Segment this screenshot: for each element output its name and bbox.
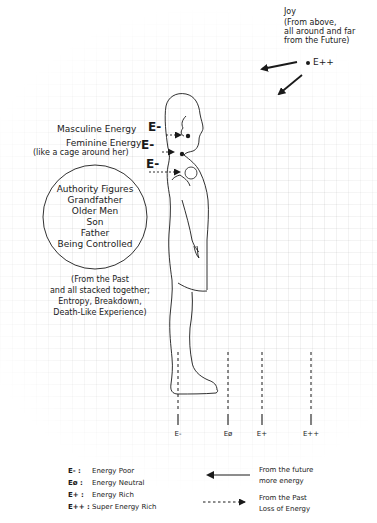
joy-arrow-down	[279, 75, 302, 94]
circle-item-authority: Authority Figures	[43, 184, 147, 194]
legend-code-e-neutral: Eø :	[68, 479, 83, 487]
joy-level: E++	[313, 57, 334, 67]
circle-item-older-men: Older Men	[43, 206, 147, 216]
legend-desc-e-neutral: Energy Neutral	[92, 479, 145, 487]
legend-solid-line2: more energy	[259, 477, 304, 485]
energy-scale	[178, 352, 311, 425]
heart-circle	[185, 167, 197, 179]
joy-line1: (From above,	[284, 18, 337, 27]
circle-item-son: Son	[43, 217, 147, 227]
past-note-line2: and all stacked together;	[30, 286, 170, 295]
scale-label-e-minus: E-	[168, 430, 188, 438]
legend-desc-e-plus: Energy Rich	[92, 491, 134, 499]
joy-point	[306, 61, 310, 65]
scale-label-e-neutral: Eø	[218, 430, 238, 438]
chest-level: E-	[146, 158, 159, 172]
past-note-line1: (From the Past	[30, 275, 170, 284]
legend-dashed-line1: From the Past	[259, 494, 307, 502]
joy-arrow-left	[262, 62, 297, 69]
feminine-sublabel: (like a cage around her)	[33, 148, 129, 157]
legend-code-e-plus: E+ :	[68, 491, 84, 499]
joy-line2: all around and far	[284, 27, 355, 36]
past-note-line3: Entropy, Breakdown,	[30, 297, 170, 306]
joy-line3: from the Future)	[284, 36, 349, 45]
past-note-line4: Death-Like Experience)	[30, 308, 170, 317]
circle-item-grandfather: Grandfather	[43, 195, 147, 205]
masculine-level: E-	[148, 121, 161, 135]
neck-point	[180, 152, 184, 156]
diagram-canvas	[0, 0, 377, 523]
woman-figure	[165, 94, 217, 394]
joy-title: Joy	[284, 7, 296, 16]
legend-code-e-plus-plus: E++ :	[68, 503, 90, 511]
legend-solid-line1: From the future	[259, 466, 313, 474]
scale-label-e-plus: E+	[252, 430, 272, 438]
throat-point	[186, 134, 190, 138]
legend-desc-e-plus-plus: Super Energy Rich	[92, 503, 157, 511]
feminine-label: Feminine Energy	[66, 138, 141, 148]
legend-dashed-line2: Loss of Energy	[259, 505, 310, 513]
legend-code-e-minus: E- :	[68, 467, 81, 475]
masculine-label: Masculine Energy	[57, 124, 136, 134]
circle-item-father: Father	[43, 228, 147, 238]
scale-label-e-plus-plus: E++	[299, 430, 323, 438]
feminine-level: E-	[141, 139, 154, 153]
legend-desc-e-minus: Energy Poor	[92, 467, 134, 475]
circle-item-being-controlled: Being Controlled	[43, 239, 147, 249]
